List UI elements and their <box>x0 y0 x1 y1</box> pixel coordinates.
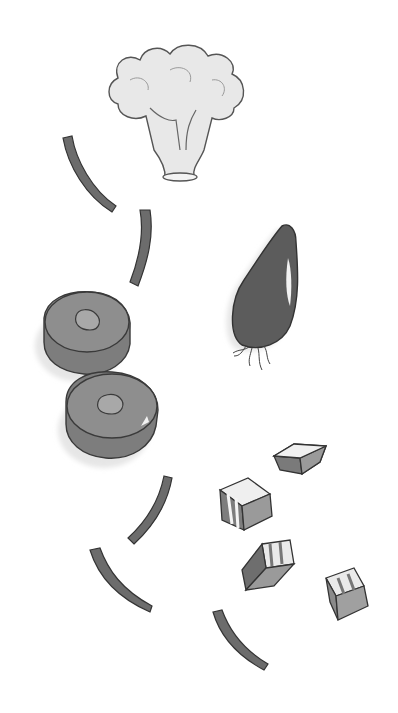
cube-2 <box>220 478 272 530</box>
vegetable-slice-top <box>35 292 130 382</box>
broccoli-floret <box>109 45 244 181</box>
food-illustration <box>0 0 398 713</box>
vegetable-slice-bottom <box>58 372 158 468</box>
onion <box>226 225 297 370</box>
cubes <box>220 444 368 620</box>
cube-1 <box>274 444 326 474</box>
cube-4 <box>326 568 368 620</box>
cube-3 <box>242 540 294 590</box>
